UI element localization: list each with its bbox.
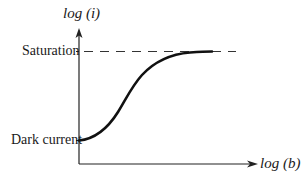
response-curve bbox=[79, 52, 212, 141]
saturation-label: Saturation bbox=[22, 44, 80, 58]
dark-current-label: Dark current bbox=[11, 133, 82, 147]
diagram-canvas bbox=[0, 0, 305, 179]
y-axis-label: log (i) bbox=[63, 6, 100, 21]
x-axis-label: log (b) bbox=[260, 156, 300, 171]
